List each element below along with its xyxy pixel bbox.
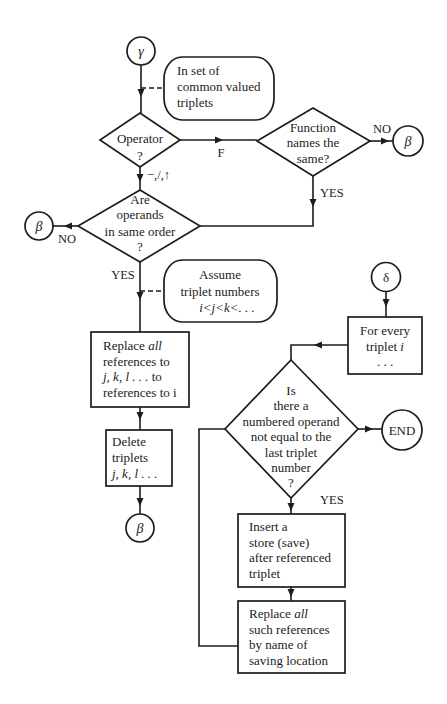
beta-label: β bbox=[404, 134, 412, 149]
process-line: references to i bbox=[103, 385, 177, 400]
annotation-line: triplet numbers bbox=[180, 284, 259, 299]
edge-label-yes: YES bbox=[111, 268, 135, 282]
arrow-down-icon bbox=[310, 199, 317, 207]
process-line: saving location bbox=[249, 653, 329, 668]
annotation-common-valued: In set of common valued triplets bbox=[164, 57, 274, 120]
process-line: after referenced bbox=[249, 550, 331, 565]
annotation-line: Assume bbox=[199, 267, 241, 282]
process-text-italic: j, k, l . . . bbox=[101, 369, 149, 384]
process-line: triplets bbox=[112, 450, 148, 465]
beta-connector-operands: β bbox=[25, 212, 53, 240]
decision-function-names: Function names the same? bbox=[257, 108, 370, 176]
decision-text: Function bbox=[290, 120, 337, 135]
gamma-label: γ bbox=[138, 44, 144, 59]
decision-numbered-operand: Is there a numbered operand not equal to… bbox=[225, 360, 358, 498]
decision-text: Are bbox=[130, 192, 150, 207]
process-replace-such-references: Replace all such references by name of s… bbox=[238, 601, 345, 673]
beta-connector-exit: β bbox=[126, 514, 154, 542]
edge-label-f: F bbox=[218, 146, 225, 160]
annotation-assume-order: Assume triplet numbers i<j<k<. . . bbox=[164, 260, 277, 322]
process-line: references to bbox=[103, 354, 170, 369]
decision-text: there a bbox=[273, 398, 308, 413]
arrow-right-icon bbox=[365, 426, 373, 433]
edge-label-no: NO bbox=[373, 122, 391, 136]
decision-text: Is bbox=[286, 383, 295, 398]
edge-label-yes: YES bbox=[320, 186, 344, 200]
arrow-down-icon bbox=[138, 89, 145, 97]
edge-function-yes bbox=[200, 176, 313, 226]
arrow-down-icon bbox=[288, 589, 295, 597]
edge-label-no: NO bbox=[58, 232, 76, 246]
arrow-down-icon bbox=[137, 174, 144, 182]
edge-label-yes: YES bbox=[320, 493, 344, 507]
decision-text: ? bbox=[288, 475, 294, 490]
decision-text: Operator bbox=[117, 131, 164, 146]
decision-operator: Operator ? bbox=[100, 113, 180, 167]
arrow-right-icon bbox=[381, 138, 389, 145]
end-label: END bbox=[389, 423, 416, 438]
process-line: triplet bbox=[249, 566, 280, 581]
annotation-line: common valued bbox=[177, 79, 261, 94]
process-line: Replace all bbox=[103, 338, 162, 353]
process-line: triplet i bbox=[366, 339, 404, 354]
process-text-italic: i bbox=[400, 339, 404, 354]
arrow-left-icon bbox=[64, 223, 72, 230]
decision-text: number bbox=[271, 460, 311, 475]
decision-text: numbered operand bbox=[242, 414, 340, 429]
decision-text: ? bbox=[137, 239, 143, 254]
arrow-right-icon bbox=[215, 137, 223, 144]
process-text-italic: all bbox=[148, 338, 162, 353]
decision-text: not equal to the bbox=[251, 429, 332, 444]
process-line: Insert a bbox=[249, 519, 288, 534]
process-text: Replace bbox=[103, 338, 148, 353]
process-text-italic: all bbox=[294, 606, 308, 621]
process-line: Replace all bbox=[249, 606, 308, 621]
process-line: by name of bbox=[249, 637, 308, 652]
delta-entry-connector: δ bbox=[372, 263, 401, 292]
process-line: store (save) bbox=[249, 535, 309, 550]
flowchart-page: γ In set of common valued triplets Opera… bbox=[0, 0, 447, 704]
gamma-entry-connector: γ bbox=[127, 37, 155, 65]
process-line: j, k, l . . . bbox=[110, 466, 158, 481]
arrow-down-icon bbox=[137, 498, 144, 506]
process-for-every-triplet: For every triplet i . . . bbox=[348, 317, 422, 374]
decision-text: same? bbox=[297, 151, 330, 166]
decision-text: in same order bbox=[105, 224, 176, 239]
arrow-down-icon bbox=[137, 412, 144, 420]
process-line: j, k, l . . . to bbox=[101, 369, 162, 384]
process-text: triplet bbox=[366, 339, 400, 354]
process-insert-store: Insert a store (save) after referenced t… bbox=[238, 514, 345, 587]
delta-label: δ bbox=[383, 270, 389, 285]
end-terminator: END bbox=[382, 410, 422, 450]
edge-loop-back bbox=[199, 429, 238, 646]
decision-operand-order: Are operands in same order ? bbox=[78, 190, 200, 262]
decision-text: ? bbox=[137, 148, 143, 163]
annotation-line: i<j<k<. . . bbox=[199, 300, 255, 315]
process-replace-references: Replace all references to j, k, l . . . … bbox=[91, 332, 189, 407]
beta-connector-function: β bbox=[393, 126, 423, 156]
annotation-line: In set of bbox=[177, 63, 220, 78]
annotation-line: triplets bbox=[177, 95, 213, 110]
process-line: . . . bbox=[377, 354, 393, 369]
process-line: such references bbox=[249, 622, 329, 637]
decision-text: names the bbox=[287, 135, 340, 150]
arrow-down-icon bbox=[383, 299, 390, 307]
decision-text: operands bbox=[117, 207, 164, 222]
process-line: Delete bbox=[112, 434, 146, 449]
process-text: to bbox=[149, 369, 162, 384]
arrow-left-icon bbox=[314, 342, 322, 349]
process-delete-triplets: Delete triplets j, k, l . . . bbox=[106, 430, 172, 486]
decision-text: last triplet bbox=[265, 445, 318, 460]
beta-label: β bbox=[136, 521, 144, 536]
process-text: Replace bbox=[249, 606, 294, 621]
arrow-down-icon bbox=[288, 503, 295, 511]
flowchart-canvas: γ In set of common valued triplets Opera… bbox=[0, 0, 447, 704]
process-line: For every bbox=[360, 323, 411, 338]
arrow-down-icon bbox=[137, 292, 144, 300]
beta-label: β bbox=[35, 219, 43, 234]
edge-label-arith-ops: −,/,↑ bbox=[147, 168, 170, 182]
